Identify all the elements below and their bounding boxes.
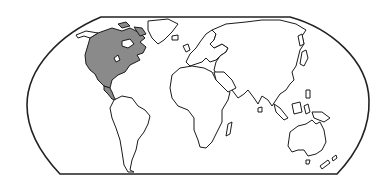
iceland	[172, 35, 178, 40]
sri-lanka	[258, 107, 262, 112]
world-map: World map with North America highlighted	[0, 0, 392, 190]
borneo	[292, 102, 302, 114]
tasmania	[306, 160, 310, 164]
world-map-svg	[0, 0, 392, 190]
philippines	[306, 90, 310, 98]
